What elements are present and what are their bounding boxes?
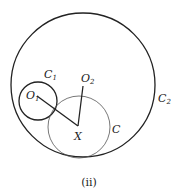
label-x: X	[73, 130, 83, 143]
caption: (ii)	[81, 176, 97, 189]
label-c2: C2	[158, 92, 171, 106]
label-o2: O2	[81, 72, 95, 86]
label-c: C	[112, 123, 121, 136]
segment-o2-x	[78, 86, 83, 126]
circle-c2	[11, 13, 155, 157]
label-c1: C1	[44, 68, 57, 82]
label-o1: O1	[26, 89, 40, 103]
circles-diagram: C1 O1 O2 C2 C X (ii)	[0, 0, 179, 194]
circle-c	[48, 96, 110, 158]
